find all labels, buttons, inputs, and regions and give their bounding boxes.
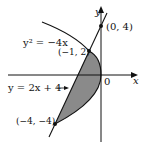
parabola-label: y² = −4x xyxy=(22,37,68,48)
diagram: y x 0 (0, 4) (−1, 2) (−4, −4) y² = −4x y… xyxy=(0,0,145,144)
origin-label: 0 xyxy=(104,76,110,87)
point-label-0-4: (0, 4) xyxy=(106,21,133,32)
point-label-neg1-2: (−1, 2) xyxy=(58,47,90,57)
x-axis-label: x xyxy=(133,75,139,86)
point-0-4 xyxy=(99,24,103,28)
shaded-region xyxy=(55,51,101,124)
point-label-neg4-neg4: (−4, −4) xyxy=(16,116,55,126)
arrow-icon xyxy=(64,86,69,90)
y-axis-label: y xyxy=(94,6,101,17)
line-label: y = 2x + 4 xyxy=(7,82,62,93)
plot-canvas: y x 0 (0, 4) (−1, 2) (−4, −4) y² = −4x y… xyxy=(0,0,145,144)
